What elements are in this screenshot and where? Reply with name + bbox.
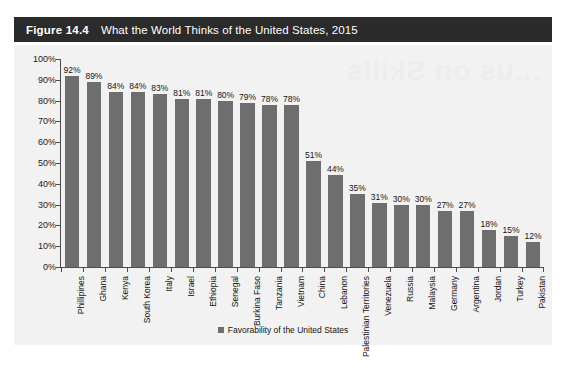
x-axis-tick (412, 268, 434, 272)
bar-column[interactable]: 15% (500, 59, 522, 267)
y-axis-tick-label: 20% (38, 220, 56, 230)
bar-value-label: 31% (371, 192, 388, 202)
figure-title: What the World Thinks of the United Stat… (101, 24, 358, 36)
bar[interactable]: 92% (65, 76, 79, 267)
bar-column[interactable]: 12% (522, 59, 544, 267)
bar[interactable]: 30% (416, 205, 430, 267)
y-axis-tick (56, 205, 60, 206)
bar[interactable]: 30% (394, 205, 408, 267)
plot-area: 0%10%20%30%40%50%60%70%80%90%100% 92%89%… (14, 45, 552, 345)
bar-column[interactable]: 89% (83, 59, 105, 267)
bar[interactable]: 27% (438, 211, 452, 267)
bar-value-label: 84% (129, 81, 146, 91)
bar-column[interactable]: 84% (105, 59, 127, 267)
bar[interactable]: 79% (240, 103, 254, 267)
bar[interactable]: 15% (504, 236, 518, 267)
clipped-source-line (16, 366, 436, 373)
y-axis-tick-label: 100% (33, 54, 56, 64)
chart-frame: ...us on Skills 0%10%20%30%40%50%60%70%8… (14, 45, 552, 345)
bar-column[interactable]: 78% (281, 59, 303, 267)
bar-column[interactable]: 30% (412, 59, 434, 267)
bar-value-label: 84% (107, 81, 124, 91)
x-axis-tick (368, 268, 390, 272)
x-axis-tick (478, 268, 500, 272)
bar-value-label: 78% (261, 94, 278, 104)
bar[interactable]: 81% (175, 99, 189, 267)
y-axis-tick (56, 121, 60, 122)
y-axis-tick (56, 101, 60, 102)
bar-value-label: 18% (481, 219, 498, 229)
bar[interactable]: 78% (284, 105, 298, 267)
bar-column[interactable]: 31% (368, 59, 390, 267)
bar[interactable]: 44% (328, 175, 342, 267)
bar[interactable]: 27% (460, 211, 474, 267)
bar-column[interactable]: 79% (237, 59, 259, 267)
bar[interactable]: 18% (482, 230, 496, 267)
x-axis-tick (105, 268, 127, 272)
bar-column[interactable]: 78% (259, 59, 281, 267)
bar-column[interactable]: 81% (193, 59, 215, 267)
y-axis-tick (56, 142, 60, 143)
x-axis-tick (193, 268, 215, 272)
x-axis-tick (324, 268, 346, 272)
bar[interactable]: 78% (262, 105, 276, 267)
chart-legend: Favorability of the United States (14, 325, 552, 335)
x-axis-tick (346, 268, 368, 272)
bar-value-label: 92% (63, 65, 80, 75)
bar[interactable]: 80% (218, 101, 232, 267)
bar-column[interactable]: 30% (390, 59, 412, 267)
y-axis-tick (56, 267, 60, 268)
bar-column[interactable]: 27% (456, 59, 478, 267)
bar-series-container: 92%89%84%84%83%81%81%80%79%78%78%51%44%3… (61, 59, 544, 267)
bar-value-label: 30% (415, 194, 432, 204)
y-axis-labels: 0%10%20%30%40%50%60%70%80%90%100% (20, 59, 56, 267)
x-axis-tick (171, 268, 193, 272)
x-axis-tick (456, 268, 478, 272)
x-axis-tick (149, 268, 171, 272)
bar[interactable]: 31% (372, 203, 386, 267)
bar-value-label: 81% (195, 88, 212, 98)
bar-value-label: 78% (283, 94, 300, 104)
x-axis-tick (127, 268, 149, 272)
x-axis-category-label: Pakistan (537, 276, 547, 309)
bar-value-label: 35% (349, 183, 366, 193)
y-axis-tick (56, 184, 60, 185)
y-axis-tick (56, 246, 60, 247)
bar-column[interactable]: 92% (61, 59, 83, 267)
bar-column[interactable]: 84% (127, 59, 149, 267)
bar-column[interactable]: 44% (324, 59, 346, 267)
figure-page: Figure 14.4 What the World Thinks of the… (0, 0, 567, 373)
bar[interactable]: 35% (350, 194, 364, 267)
bar[interactable]: 84% (131, 92, 145, 267)
bar-value-label: 81% (173, 88, 190, 98)
bar[interactable]: 51% (306, 161, 320, 267)
y-axis-tick (56, 80, 60, 81)
y-axis-tick-label: 80% (38, 96, 56, 106)
bar-column[interactable]: 27% (434, 59, 456, 267)
bar-column[interactable]: 18% (478, 59, 500, 267)
y-axis-tick-label: 0% (43, 262, 56, 272)
bar-value-label: 80% (217, 90, 234, 100)
bar-column[interactable]: 80% (215, 59, 237, 267)
bar-value-label: 51% (305, 150, 322, 160)
bar-value-label: 27% (437, 200, 454, 210)
bar-column[interactable]: 83% (149, 59, 171, 267)
legend-label: Favorability of the United States (228, 325, 348, 335)
bar-value-label: 15% (503, 225, 520, 235)
x-axis-tick (237, 268, 259, 272)
bar[interactable]: 89% (87, 82, 101, 267)
bar-column[interactable]: 51% (302, 59, 324, 267)
bar[interactable]: 83% (153, 94, 167, 267)
y-axis-tick-label: 90% (38, 75, 56, 85)
y-axis-tick-label: 70% (38, 116, 56, 126)
bar-column[interactable]: 81% (171, 59, 193, 267)
bar-column[interactable]: 35% (346, 59, 368, 267)
bar[interactable]: 12% (526, 242, 540, 267)
x-axis-tick (83, 268, 105, 272)
y-axis-tick-label: 40% (38, 179, 56, 189)
bar[interactable]: 81% (196, 99, 210, 267)
x-axis-tick (390, 268, 412, 272)
y-axis-tick (56, 59, 60, 60)
bar-value-label: 79% (239, 92, 256, 102)
bar[interactable]: 84% (109, 92, 123, 267)
